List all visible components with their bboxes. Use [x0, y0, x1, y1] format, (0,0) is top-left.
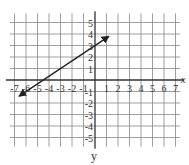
x-tick-label: -2: [68, 83, 76, 94]
x-tick-label: -3: [56, 83, 64, 94]
y-axis-label: y: [91, 149, 97, 163]
x-tick-label: 1: [104, 83, 109, 94]
coordinate-plane: -7-6-5-4-3-2-1123456754321-1-2-3-4-5 x y: [0, 0, 189, 165]
y-tick-label: -4: [85, 121, 93, 132]
y-tick-label: -3: [85, 110, 93, 121]
axes: [6, 11, 184, 148]
y-tick-label: 1: [88, 64, 93, 75]
y-tick-label: -1: [85, 87, 93, 98]
y-tick-label: 2: [88, 52, 93, 63]
x-tick-label: -4: [45, 83, 53, 94]
x-tick-label: 6: [162, 83, 167, 94]
y-tick-label: -5: [85, 133, 93, 144]
x-tick-label: -7: [10, 83, 18, 94]
x-tick-label: 4: [139, 83, 144, 94]
y-tick-label: 5: [88, 18, 93, 29]
y-tick-label: -2: [85, 98, 93, 109]
x-tick-label: 3: [127, 83, 132, 94]
x-tick-label: 5: [150, 83, 155, 94]
x-tick-label: -6: [22, 83, 30, 94]
x-axis-label: x: [180, 74, 186, 85]
y-tick-label: 4: [88, 29, 93, 40]
x-tick-label: 7: [173, 83, 178, 94]
x-tick-label: 2: [116, 83, 121, 94]
